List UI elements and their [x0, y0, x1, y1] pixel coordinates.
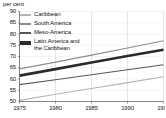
legend-item: South America: [20, 20, 98, 28]
chart-legend: CaribbeanSouth AmericaMeso-AmericaLatin …: [20, 11, 98, 54]
legend-swatch-icon: [20, 23, 31, 25]
x-tick-label: 1975: [10, 105, 30, 111]
y-tick-label: 70: [2, 53, 16, 59]
legend-swatch-icon: [20, 41, 31, 45]
legend-label: Caribbean: [34, 11, 60, 18]
y-tick-label: 80: [2, 31, 16, 37]
legend-swatch-icon: [20, 32, 31, 34]
y-tick-label: 60: [2, 76, 16, 82]
y-tick-label: 85: [2, 19, 16, 25]
x-tick-label: 1990: [118, 105, 138, 111]
legend-label: Latin America and the Caribbean: [34, 38, 79, 52]
y-tick-label: 90: [2, 8, 16, 14]
x-tick-label: 1995: [154, 105, 166, 111]
y-tick-label: 75: [2, 42, 16, 48]
legend-item: Meso-America: [20, 29, 98, 37]
legend-label: South America: [34, 20, 71, 27]
legend-label: Meso-America: [34, 29, 71, 36]
x-tick-label: 1980: [46, 105, 66, 111]
y-tick-label: 65: [2, 64, 16, 70]
y-tick-label: 55: [2, 87, 16, 93]
chart-container: per cent 908580757065605550 197519801985…: [0, 0, 165, 118]
legend-swatch-icon: [20, 14, 31, 16]
x-tick-label: 1985: [82, 105, 102, 111]
legend-item: Caribbean: [20, 11, 98, 19]
legend-item: Latin America and the Caribbean: [20, 38, 98, 53]
y-tick-label: 50: [2, 98, 16, 104]
